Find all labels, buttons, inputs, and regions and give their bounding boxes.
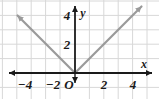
x-tick-label-4: 4 [129, 77, 137, 92]
y-tick-label-4: 4 [63, 8, 71, 23]
x-axis-name-label: x [140, 57, 147, 71]
coordinate-plane-figure: −4 −2 2 4 2 4 O x y [0, 0, 159, 99]
x-tick-label-minus-2: −2 [46, 77, 61, 92]
x-tick-label-minus-4: −4 [18, 77, 33, 92]
origin-label: O [64, 77, 74, 92]
y-tick-label-2: 2 [63, 37, 71, 52]
graph-canvas: −4 −2 2 4 2 4 O x y [0, 0, 159, 99]
y-axis-name-label: y [78, 6, 86, 20]
x-tick-label-2: 2 [100, 77, 108, 92]
